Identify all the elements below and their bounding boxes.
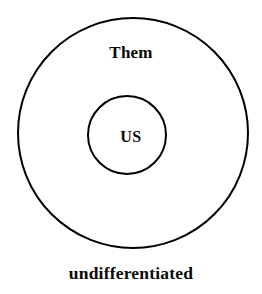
inner-circle-label: US [0, 129, 262, 145]
diagram-canvas: Them US undifferentiated [0, 0, 262, 294]
diagram-caption: undifferentiated [0, 265, 262, 283]
outer-circle-label: Them [0, 44, 262, 61]
